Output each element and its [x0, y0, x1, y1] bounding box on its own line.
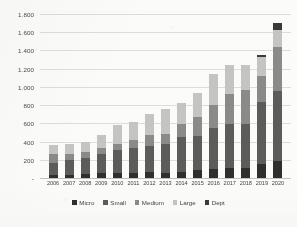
stacked-bar[interactable]: [209, 74, 218, 178]
bar-segment-large: [129, 122, 138, 140]
stacked-bar[interactable]: [145, 114, 154, 178]
bar-slot: [190, 14, 206, 178]
bar-segment-micro: [97, 173, 106, 178]
bar-segment-large: [145, 114, 154, 135]
legend-item-small[interactable]: Small: [103, 199, 125, 206]
bar-segment-small: [65, 160, 74, 175]
bar-segment-large: [161, 109, 170, 134]
chart-legend: MicroSmallMediumLargeDept: [0, 199, 297, 206]
stacked-bar[interactable]: [161, 109, 170, 178]
legend-item-label: Micro: [79, 199, 94, 206]
bar-segment-small: [241, 124, 250, 169]
bar-segment-micro: [225, 168, 234, 178]
bar-segment-small: [145, 146, 154, 172]
bar-slot: [77, 14, 93, 178]
bar-segment-micro: [113, 173, 122, 178]
x-axis-tick-label: 2017: [222, 180, 238, 186]
bar-segment-micro: [81, 174, 90, 178]
legend-item-label: Medium: [142, 199, 164, 206]
x-axis-tick-label: 2010: [109, 180, 125, 186]
x-axis-tick-label: 2020: [270, 180, 286, 186]
bar-segment-large: [273, 30, 282, 48]
bar-segment-small: [209, 128, 218, 169]
stacked-bar[interactable]: [129, 122, 138, 178]
legend-item-dept[interactable]: Dept: [205, 199, 225, 206]
x-axis-tick-label: 2016: [206, 180, 222, 186]
y-axis-tick-label: 1.000: [18, 83, 34, 90]
stacked-column-chart: -2004006008001.0001.2001.4001.6001.800 2…: [0, 0, 297, 227]
bar-segment-large: [97, 135, 106, 148]
bar-segment-medium: [177, 124, 186, 138]
bar-segment-medium: [81, 152, 90, 159]
y-axis-tick-label: 1.800: [18, 11, 34, 18]
bar-segment-large: [209, 74, 218, 105]
bar-segment-small: [81, 158, 90, 174]
bar-segment-large: [65, 144, 74, 154]
bar-segment-small: [161, 144, 170, 173]
bar-segment-large: [49, 145, 58, 154]
bar-segment-micro: [49, 175, 58, 178]
bar-segment-small: [193, 136, 202, 171]
legend-item-micro[interactable]: Micro: [72, 199, 94, 206]
y-axis-tick-label: 1.600: [18, 29, 34, 36]
legend-item-large[interactable]: Large: [173, 199, 196, 206]
y-axis-tick-label: 800: [23, 102, 34, 109]
bar-slot: [61, 14, 77, 178]
stacked-bar[interactable]: [257, 55, 266, 178]
y-axis-tick-label: 200: [23, 156, 34, 163]
bar-segment-medium: [225, 94, 234, 124]
stacked-bar[interactable]: [97, 135, 106, 178]
bar-segment-micro: [273, 161, 282, 178]
x-axis-tick-label: 2012: [141, 180, 157, 186]
bar-segment-large: [193, 93, 202, 117]
bar-segment-medium: [209, 105, 218, 128]
bar-segment-medium: [241, 90, 250, 124]
bar-segment-small: [257, 102, 266, 164]
y-axis-tick-label: -: [32, 175, 34, 182]
x-axis: 2006200720082009201020112012201320142015…: [40, 180, 291, 186]
bar-segment-large: [81, 142, 90, 152]
x-axis-tick-label: 2015: [190, 180, 206, 186]
legend-item-label: Small: [110, 199, 125, 206]
x-axis-tick-label: 2014: [174, 180, 190, 186]
stacked-bar[interactable]: [65, 144, 74, 178]
bar-segment-micro: [129, 173, 138, 178]
bar-slot: [45, 14, 61, 178]
bar-segment-small: [273, 91, 282, 162]
bar-segment-small: [113, 150, 122, 173]
bar-segment-micro: [209, 169, 218, 178]
bar-segment-small: [225, 124, 234, 168]
bar-segment-micro: [161, 173, 170, 178]
bar-slot: [141, 14, 157, 178]
y-axis-tick-label: 600: [23, 120, 34, 127]
y-axis-tick-label: 1.400: [18, 47, 34, 54]
stacked-bar[interactable]: [49, 145, 58, 178]
legend-item-medium[interactable]: Medium: [135, 199, 164, 206]
bar-segment-large: [225, 65, 234, 95]
bar-segment-medium: [193, 117, 202, 136]
x-axis-tick-label: 2011: [125, 180, 141, 186]
stacked-bar[interactable]: [241, 65, 250, 178]
x-axis-tick-label: 2019: [254, 180, 270, 186]
bar-slot: [222, 14, 238, 178]
stacked-bar[interactable]: [113, 125, 122, 178]
stacked-bar[interactable]: [273, 23, 282, 178]
bar-segment-micro: [177, 172, 186, 178]
stacked-bar[interactable]: [193, 93, 202, 178]
legend-swatch-icon: [173, 200, 178, 205]
bar-segment-medium: [161, 134, 170, 144]
bar-segment-small: [97, 154, 106, 174]
bar-segment-small: [129, 148, 138, 173]
bar-slot: [206, 14, 222, 178]
bar-series-container: [40, 14, 291, 178]
bar-segment-large: [241, 65, 250, 91]
y-axis-tick-label: 1.200: [18, 65, 34, 72]
stacked-bar[interactable]: [177, 103, 186, 178]
legend-swatch-icon: [103, 200, 108, 205]
stacked-bar[interactable]: [81, 142, 90, 178]
legend-swatch-icon: [72, 200, 77, 205]
bar-slot: [174, 14, 190, 178]
bar-segment-small: [49, 163, 58, 176]
legend-swatch-icon: [135, 200, 140, 205]
stacked-bar[interactable]: [225, 65, 234, 178]
